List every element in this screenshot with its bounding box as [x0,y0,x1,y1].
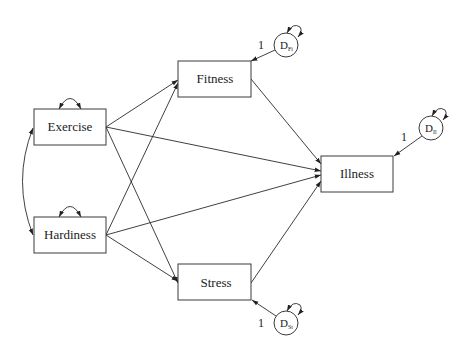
edge-exercise-fitness [106,80,178,127]
node-label: Stress [200,275,231,290]
disturbance-subscript: Il [433,129,437,135]
path-label: 1 [258,316,264,330]
edge-hardiness-stress [106,235,178,281]
edge-exercise-stress [106,127,178,283]
node-label: Illness [340,166,374,181]
edge-dil-illness [394,136,422,156]
disturbance-subscript: Fi [288,46,293,52]
covariance-exercise-hardiness [23,128,34,235]
node-hardiness: Hardiness [34,217,106,253]
disturbance-subscript: St [288,324,293,330]
path-label: 1 [401,130,407,144]
edge-stress-illness [251,181,321,283]
node-stress: Stress [178,264,251,300]
disturbance-label: D [425,122,433,134]
edge-hardiness-fitness [106,83,178,235]
path-diagram: Exercise Hardiness Fitness Stress Illnes… [0,0,470,357]
node-fitness: Fitness [178,61,251,97]
node-label: Exercise [48,119,93,134]
edge-exercise-illness [106,127,321,171]
edge-dst-stress [252,300,276,316]
path-label: 1 [258,38,264,52]
disturbance-label: D [280,317,288,329]
disturbance-label: D [280,39,288,51]
disturbance-stress: DSt 1 [258,311,298,335]
variance-exercise [59,99,81,110]
edge-fitness-illness [251,79,321,164]
variance-hardiness [59,207,81,218]
node-illness: Illness [321,156,393,192]
node-exercise: Exercise [34,109,106,145]
disturbance-fitness: DFi 1 [258,33,298,57]
node-label: Fitness [197,71,234,86]
edge-hardiness-illness [106,175,321,235]
disturbance-illness: DIl 1 [401,116,443,144]
node-label: Hardiness [44,227,96,242]
